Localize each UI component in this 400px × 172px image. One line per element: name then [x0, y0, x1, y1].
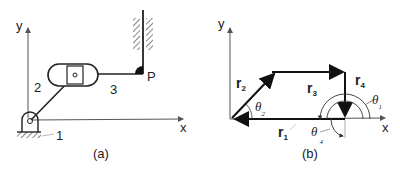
theta-2-arc [246, 104, 252, 119]
theta-4-arc [331, 119, 343, 136]
theta-1-label: θ1 [372, 92, 382, 111]
guide-left-hatch [133, 18, 140, 50]
caption-b: (b) [302, 146, 318, 161]
point-p-label: P [147, 69, 156, 84]
mechanism-diagram: y x 1 2 3 P (a) y x [0, 0, 400, 172]
theta-2-label: θ2 [255, 99, 265, 118]
caption-a: (a) [93, 146, 109, 161]
link-2-label: 2 [34, 80, 41, 95]
theta-4-label: θ4 [311, 124, 323, 146]
link-3-label: 3 [110, 82, 117, 97]
r3-label: r3 [307, 80, 317, 98]
link-1-label: 1 [56, 128, 63, 143]
r2-label: r2 [236, 75, 246, 93]
panel-a: y x 1 2 3 P (a) [16, 10, 187, 161]
theta-4-leader [320, 129, 330, 132]
r1-label: r1 [278, 124, 288, 142]
ground-leader [42, 134, 54, 136]
y-axis-label-b: y [218, 16, 225, 31]
x-axis [30, 119, 183, 120]
y-axis-label: y [16, 18, 23, 33]
slider-pin [73, 73, 77, 77]
guide-right-hatch [146, 18, 153, 50]
joint-p [135, 66, 143, 74]
x-axis-label: x [180, 120, 187, 135]
r4-label: r4 [355, 72, 365, 90]
x-axis-label-b: x [382, 120, 389, 135]
panel-b: y x r2 r3 r4 r1 θ2 θ1 θ4 (b) [218, 16, 389, 161]
r1-leader [290, 124, 296, 130]
ground-pivot [17, 112, 41, 138]
